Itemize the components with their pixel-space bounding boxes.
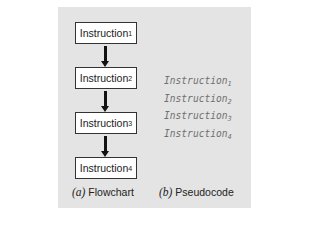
pseudocode-subscript: 3 (228, 115, 232, 123)
flowchart-box-label: Instruction (80, 72, 128, 84)
flow-arrow-down-icon (104, 91, 107, 107)
flowchart-box-label: Instruction (80, 117, 128, 129)
pseudocode-text: Instruction (164, 110, 228, 121)
pseudocode-block: Instruction1 Instruction2 Instruction3 I… (164, 74, 232, 144)
pseudocode-subscript: 1 (228, 80, 232, 88)
flow-arrow-down-icon (104, 136, 107, 152)
flow-arrow-down-icon (104, 46, 107, 62)
flowchart-box-2: Instruction2 (75, 67, 137, 89)
flowchart-box-3: Instruction3 (75, 112, 137, 134)
pseudocode-subscript: 2 (228, 98, 232, 106)
pseudocode-caption: (b) Pseudocode (159, 186, 234, 198)
pseudocode-text: Instruction (164, 128, 228, 139)
caption-letter: (b) (159, 186, 172, 198)
flowchart-box-4: Instruction4 (75, 157, 137, 179)
flowchart-box-label: Instruction (80, 27, 128, 39)
flowchart-box-subscript: 3 (128, 120, 132, 127)
pseudocode-text: Instruction (164, 93, 228, 104)
pseudocode-line: Instruction4 (164, 127, 232, 145)
flowchart-box-subscript: 1 (128, 30, 132, 37)
flowchart-box-subscript: 4 (128, 165, 132, 172)
flowchart-caption: (a) Flowchart (72, 186, 134, 198)
pseudocode-line: Instruction2 (164, 92, 232, 110)
caption-text: Flowchart (88, 186, 134, 198)
caption-text: Pseudocode (175, 186, 233, 198)
flowchart-box-label: Instruction (80, 162, 128, 174)
pseudocode-subscript: 4 (228, 133, 232, 141)
caption-letter: (a) (72, 186, 85, 198)
pseudocode-text: Instruction (164, 75, 228, 86)
flowchart-box-subscript: 2 (128, 75, 132, 82)
flowchart-box-1: Instruction1 (75, 22, 137, 44)
pseudocode-line: Instruction3 (164, 109, 232, 127)
pseudocode-line: Instruction1 (164, 74, 232, 92)
